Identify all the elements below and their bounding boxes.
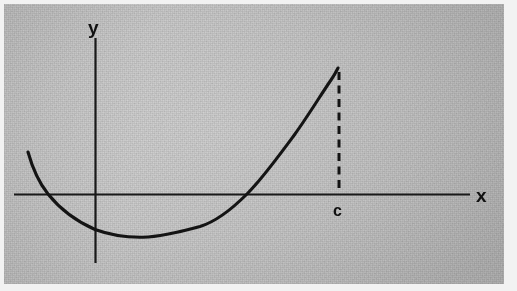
y-axis-label: y: [88, 18, 99, 37]
x-axis-point-label-c: c: [333, 203, 342, 219]
plot-drawing: [0, 0, 517, 291]
parabola-curve: [28, 68, 338, 237]
x-axis-label: x: [476, 186, 487, 205]
figure-root: y x c: [0, 0, 517, 291]
